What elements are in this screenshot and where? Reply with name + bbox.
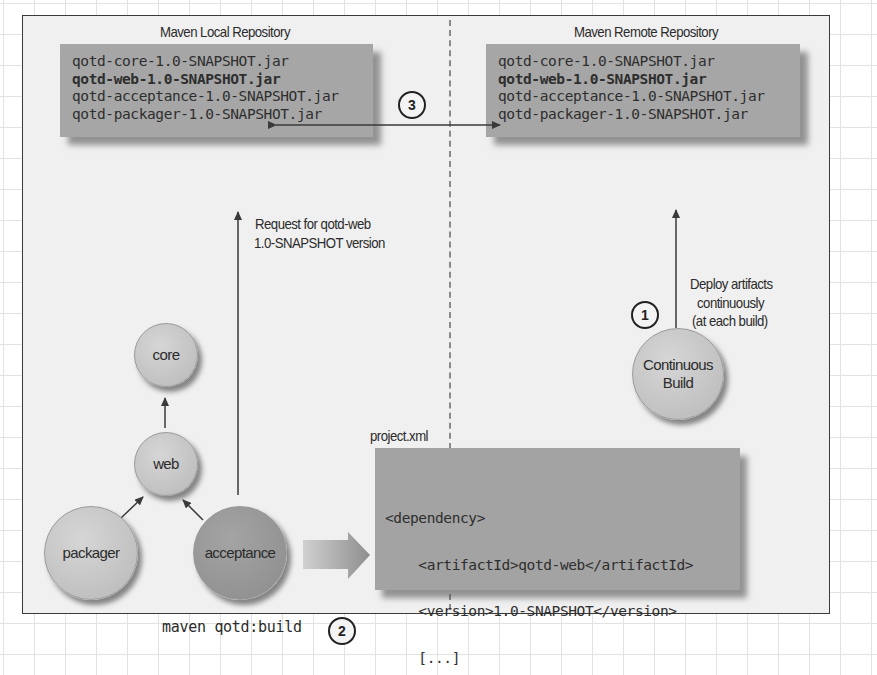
deploy-annotation-line1: Deploy artifacts bbox=[690, 275, 773, 292]
packager-node: packager bbox=[44, 506, 138, 600]
packager-node-label: packager bbox=[63, 544, 120, 562]
acceptance-to-web-arrow bbox=[183, 500, 203, 520]
build-command: maven qotd:build bbox=[162, 618, 302, 636]
project-file-name: project.xml bbox=[370, 427, 428, 444]
continuous-build-label-line1: Continuous bbox=[643, 356, 713, 374]
acceptance-node: acceptance bbox=[193, 506, 287, 600]
web-node-label: web bbox=[153, 455, 179, 473]
step-1-badge: 1 bbox=[631, 301, 659, 329]
xml-line-3: <version>1.0-SNAPSHOT</version> bbox=[385, 604, 740, 620]
core-node-label: core bbox=[153, 346, 180, 364]
xml-line-4: [...] bbox=[385, 651, 740, 667]
continuous-build-node: Continuous Build bbox=[632, 328, 724, 420]
step-2-badge: 2 bbox=[328, 617, 356, 645]
request-annotation-line1: Request for qotd-web bbox=[255, 215, 371, 232]
request-annotation-line2: 1.0-SNAPSHOT version bbox=[254, 234, 385, 251]
core-node: core bbox=[134, 323, 198, 387]
packager-to-web-arrow bbox=[121, 497, 143, 518]
deploy-annotation-line3: (at each build) bbox=[692, 312, 768, 329]
project-xml-box: <dependency> <artifactId>qotd-web</artif… bbox=[375, 448, 740, 590]
xml-line-1: <dependency> bbox=[385, 511, 740, 527]
web-node: web bbox=[134, 432, 198, 496]
acceptance-node-label: acceptance bbox=[205, 544, 276, 562]
step-3-badge: 3 bbox=[398, 91, 426, 119]
continuous-build-label-line2: Build bbox=[643, 374, 713, 392]
uses-project-arrow bbox=[303, 532, 370, 579]
xml-line-2: <artifactId>qotd-web</artifactId> bbox=[385, 558, 740, 574]
deploy-annotation-line2: continuously bbox=[697, 294, 764, 311]
